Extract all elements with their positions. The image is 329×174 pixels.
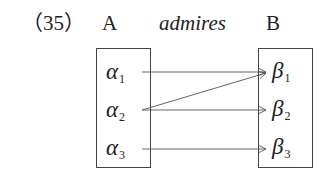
arrow-alpha2-beta1 [142, 73, 266, 110]
mapping-arrows [0, 0, 329, 174]
